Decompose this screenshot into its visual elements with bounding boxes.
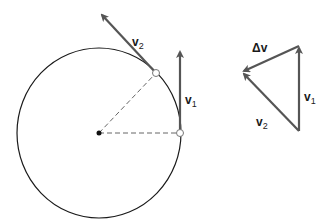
center-dot bbox=[97, 131, 102, 136]
delta-v-label: Δv bbox=[252, 41, 268, 55]
triangle-v2-label: v2 bbox=[256, 115, 268, 131]
triangle-v1-label: v1 bbox=[304, 90, 316, 106]
triangle-v2-arrow bbox=[244, 74, 299, 131]
v2-vector-arrow bbox=[102, 15, 156, 73]
circular-motion-diagram: v2 v1 Δv v1 v2 bbox=[0, 0, 328, 223]
radius-line-2 bbox=[99, 73, 156, 133]
point-marker-2 bbox=[153, 70, 160, 77]
v2-label: v2 bbox=[132, 35, 144, 51]
v1-label: v1 bbox=[185, 93, 197, 109]
point-marker-1 bbox=[177, 130, 184, 137]
